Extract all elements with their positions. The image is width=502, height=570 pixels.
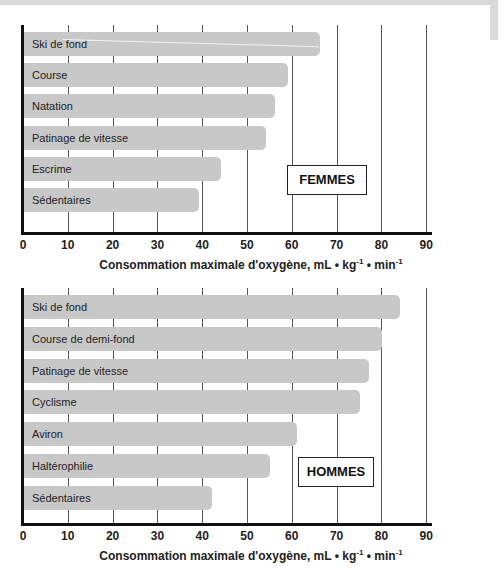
x-axis bbox=[21, 523, 432, 526]
bar-label: Patinage de vitesse bbox=[32, 365, 128, 377]
bar bbox=[24, 422, 297, 446]
x-tick-label: 50 bbox=[240, 529, 253, 543]
x-tick-label: 10 bbox=[61, 529, 74, 543]
x-label-text: Consommation maximale d'oxygène, mL • kg bbox=[99, 549, 356, 563]
gridline bbox=[381, 288, 382, 523]
x-tick-label: 20 bbox=[106, 529, 119, 543]
x-tick-label: 30 bbox=[151, 529, 164, 543]
x-label-sup: -1 bbox=[396, 548, 403, 557]
x-tick-label: 90 bbox=[420, 529, 433, 543]
x-tick-label: 60 bbox=[285, 529, 298, 543]
x-tick-label: 70 bbox=[330, 529, 343, 543]
x-tick-label: 0 bbox=[20, 529, 27, 543]
chart-hommes: Ski de fondCourse de demi-fondPatinage d… bbox=[0, 0, 502, 570]
gridline bbox=[426, 288, 427, 523]
bar-label: Sédentaires bbox=[32, 492, 91, 504]
x-axis-label: Consommation maximale d'oxygène, mL • kg… bbox=[0, 548, 502, 563]
bar-label: Course de demi-fond bbox=[32, 333, 135, 345]
bar-label: Ski de fond bbox=[32, 301, 87, 313]
bar-label: Haltérophilie bbox=[32, 460, 93, 472]
x-label-text: • min bbox=[363, 549, 395, 563]
bar-label: Cyclisme bbox=[32, 396, 77, 408]
legend-title: HOMMES bbox=[298, 457, 374, 487]
x-tick-label: 40 bbox=[196, 529, 209, 543]
x-tick-label: 80 bbox=[375, 529, 388, 543]
y-axis bbox=[21, 288, 24, 526]
bar-label: Aviron bbox=[32, 428, 63, 440]
